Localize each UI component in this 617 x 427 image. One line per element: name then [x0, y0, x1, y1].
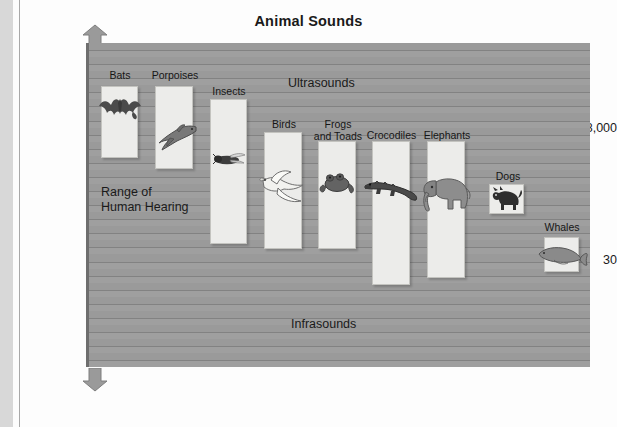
page-gutter-shadow [0, 0, 13, 427]
grid-band [89, 276, 590, 283]
bar-whales [544, 237, 579, 272]
bar-birds [264, 132, 302, 249]
figure-page: Animal Sounds Frequency (Hertz) 18,000 3… [0, 0, 617, 427]
bar-insects [210, 99, 247, 244]
grid-band [89, 332, 590, 339]
grid-band [89, 262, 590, 269]
plot-area: Ultrasounds Range of Human Hearing Infra… [86, 43, 590, 367]
gridline [89, 290, 590, 291]
page-edge-line [19, 0, 20, 427]
gridline [89, 304, 590, 305]
gridline [89, 64, 590, 65]
bar-porpoises [155, 86, 193, 169]
bar-crocodiles [372, 141, 410, 285]
zone-label-human-hearing: Range of Human Hearing [101, 185, 189, 215]
zone-label-ultrasounds: Ultrasounds [288, 76, 355, 90]
gridline [89, 360, 590, 361]
grid-band [89, 360, 590, 367]
bar-bats [101, 86, 138, 158]
bar-dogs [489, 184, 524, 214]
bar-frogs-and-toads [318, 141, 356, 249]
grid-band [89, 304, 590, 311]
grid-band [89, 290, 590, 297]
gridline [89, 346, 590, 347]
down-arrow-icon [82, 368, 108, 392]
gridline [89, 262, 590, 263]
grid-band [89, 64, 590, 71]
gridline [89, 276, 590, 277]
gridline [89, 332, 590, 333]
grid-band [89, 50, 590, 57]
zone-label-infrasounds: Infrasounds [291, 317, 356, 331]
grid-band [89, 346, 590, 353]
gridline [89, 50, 590, 51]
bar-elephants [427, 141, 465, 278]
